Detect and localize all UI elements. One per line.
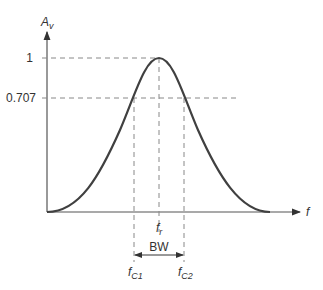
bandpass-response-diagram: Av f 1 0.707 fr BW fC1 fC2 — [0, 0, 323, 290]
fr-label: fr — [156, 221, 163, 237]
y-axis-label: Av — [40, 15, 54, 31]
fc1-label: fC1 — [128, 265, 143, 281]
x-axis-label: f — [306, 205, 311, 219]
tick-label-0707: 0.707 — [6, 91, 36, 105]
bw-label: BW — [149, 240, 169, 254]
fc2-label: fC2 — [178, 265, 193, 281]
tick-label-1: 1 — [26, 51, 33, 65]
guide-lines — [42, 58, 238, 262]
